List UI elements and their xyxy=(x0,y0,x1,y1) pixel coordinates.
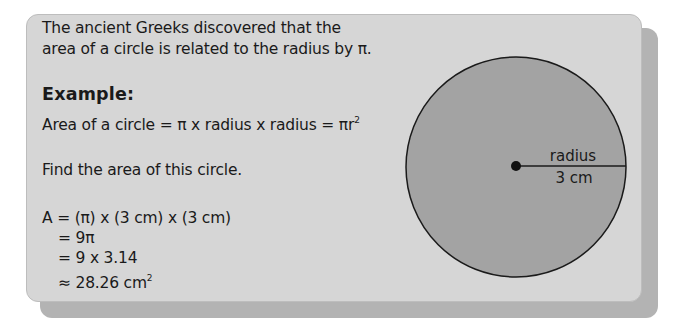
calc-result-text: ≈ 28.26 cm xyxy=(58,274,147,292)
area-formula: Area of a circle = π x radius x radius =… xyxy=(42,115,360,134)
calculation-steps: A = (π) x (3 cm) x (3 cm) = 9π = 9 x 3.1… xyxy=(42,208,231,293)
calc-step-3: = 9 x 3.14 xyxy=(42,248,231,268)
task-prompt: Find the area of this circle. xyxy=(42,161,242,179)
intro-paragraph: The ancient Greeks discovered that the a… xyxy=(42,18,402,60)
calc-step-2: = 9π xyxy=(42,228,231,248)
area-formula-exponent: 2 xyxy=(354,115,360,125)
calc-result-exponent: 2 xyxy=(147,273,153,283)
calc-step-4: ≈ 28.26 cm2 xyxy=(42,268,231,293)
intro-line-1: The ancient Greeks discovered that the xyxy=(42,18,402,39)
example-heading: Example: xyxy=(42,84,134,104)
area-formula-text: Area of a circle = π x radius x radius =… xyxy=(42,116,354,134)
intro-line-2: area of a circle is related to the radiu… xyxy=(42,39,402,60)
calc-step-1: A = (π) x (3 cm) x (3 cm) xyxy=(42,208,231,228)
